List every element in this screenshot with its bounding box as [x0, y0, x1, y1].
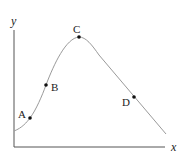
- y-axis-label: y: [10, 14, 17, 28]
- point-d-label: D: [122, 96, 130, 108]
- point-c-label: C: [73, 23, 80, 35]
- point-a-label: A: [18, 108, 26, 120]
- point-b: [44, 83, 48, 87]
- point-d: [132, 95, 136, 99]
- point-a: [28, 116, 32, 120]
- point-b-label: B: [51, 81, 58, 93]
- x-axis-label: x: [170, 140, 177, 154]
- curve-diagram: y x A B C D: [0, 0, 181, 161]
- function-curve: [14, 37, 166, 134]
- point-c: [77, 35, 81, 39]
